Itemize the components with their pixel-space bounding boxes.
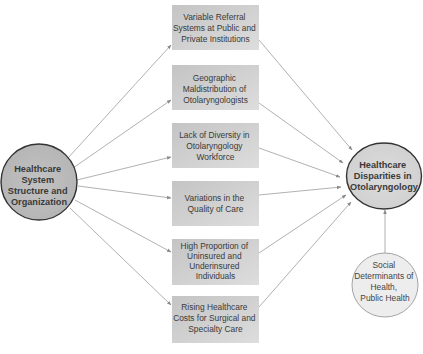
diagram-canvas: Healthcare System Structure and Organiza… <box>0 0 423 354</box>
edge-source-to-factor-5 <box>75 200 171 252</box>
edge-source-to-factor-2 <box>73 100 171 168</box>
edge-source-to-factor-4 <box>78 186 171 198</box>
edge-source-to-factor-3 <box>77 157 171 180</box>
edge-factor-1-to-target <box>259 40 352 150</box>
factor-box-geographic-maldistribution: Geographic Maldistribution of Otolaryngo… <box>172 65 259 110</box>
source-node-healthcare-system: Healthcare System Structure and Organiza… <box>1 144 77 220</box>
factor-box-workforce-diversity: Lack of Diversity in Otolaryngology Work… <box>172 123 259 168</box>
factor-box-label: Variable Referral Systems at Public and … <box>173 12 258 44</box>
edge-factor-4-to-target <box>259 187 341 195</box>
external-node-social-determinants: Social Determinants of Health, Public He… <box>352 253 418 317</box>
source-node-label: Healthcare System Structure and Organiza… <box>8 164 70 207</box>
edges-source-to-factors <box>68 45 171 305</box>
factor-box-rising-costs: Rising Healthcare Costs for Surgical and… <box>172 296 259 343</box>
factor-box-quality-of-care: Variations in the Quality of Care <box>172 181 259 226</box>
factor-box-uninsured: High Proportion of Uninsured and Underin… <box>172 239 259 285</box>
target-node-label: Healthcare Disparities in Otolaryngology <box>350 160 419 192</box>
edge-source-to-factor-6 <box>70 208 171 305</box>
factor-box-label: Variations in the Quality of Care <box>185 193 247 214</box>
edge-source-to-factor-1 <box>68 45 171 158</box>
edge-factor-6-to-target <box>259 202 351 307</box>
edge-factor-2-to-target <box>259 103 343 163</box>
target-node-healthcare-disparities: Healthcare Disparities in Otolaryngology <box>347 143 422 209</box>
edge-factor-5-to-target <box>259 195 346 253</box>
factor-box-referral-systems: Variable Referral Systems at Public and … <box>172 5 259 50</box>
